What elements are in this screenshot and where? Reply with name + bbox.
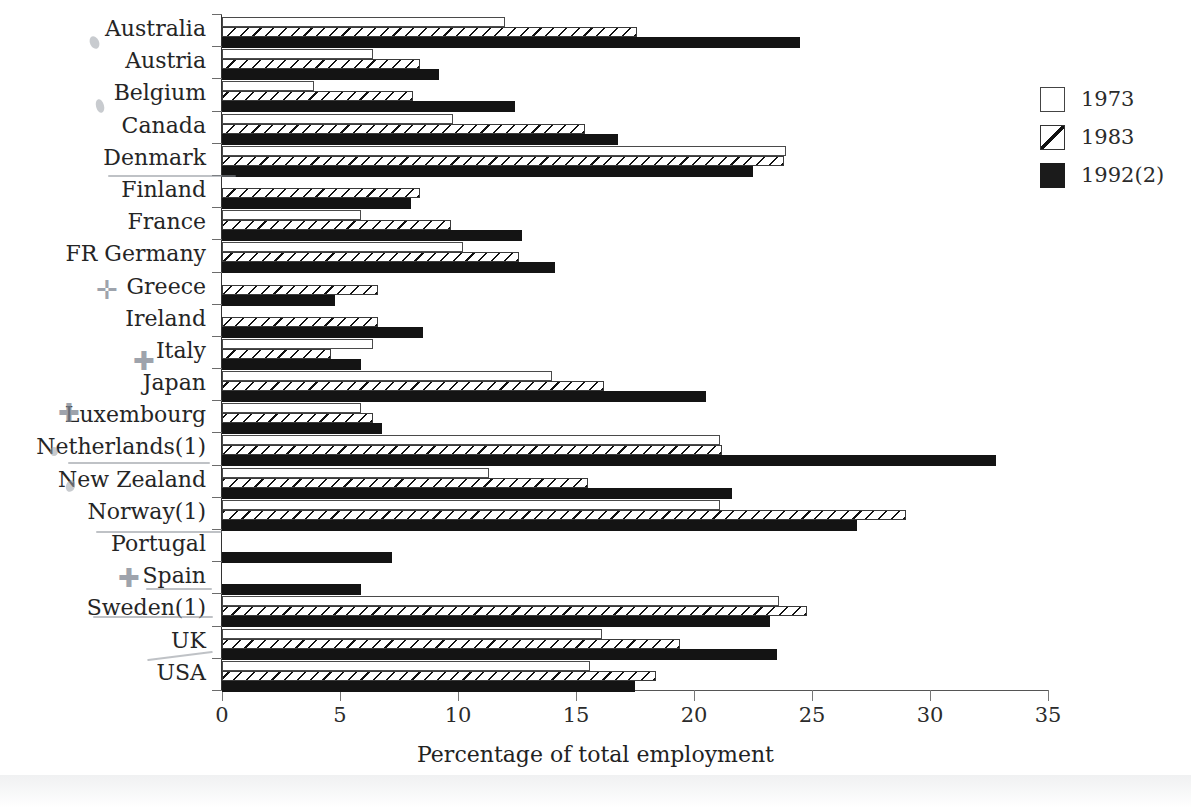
category-tick: [212, 465, 222, 466]
bar: [222, 59, 420, 69]
bar: [222, 606, 807, 616]
bar: [222, 17, 505, 27]
category-label-japan: Japan: [143, 371, 206, 395]
bar: [222, 500, 720, 510]
bar: [222, 391, 706, 402]
bar: [222, 629, 602, 639]
category-label-canada: Canada: [122, 114, 206, 138]
category-tick: [212, 561, 222, 562]
bar: [222, 339, 373, 349]
category-tick: [212, 239, 222, 240]
bar: [222, 455, 996, 466]
category-label-belgium: Belgium: [114, 81, 206, 105]
category-tick: [212, 207, 222, 208]
category-label-sweden-1: Sweden(1): [87, 596, 206, 620]
category-tick: [212, 400, 222, 401]
bar: [222, 134, 618, 145]
bar: [222, 349, 331, 359]
bar: [222, 37, 800, 48]
legend-label-1992: 1992(2): [1081, 163, 1164, 187]
x-axis-title-text: Percentage of total employment: [417, 742, 774, 767]
bar: [222, 242, 463, 252]
bar: [222, 423, 382, 434]
category-label-norway-1: Norway(1): [87, 500, 206, 524]
bar: [222, 220, 451, 230]
axis-tick-label: 10: [445, 703, 472, 727]
bar: [222, 252, 519, 262]
category-label-fr-germany: FR Germany: [65, 242, 206, 266]
bar: [222, 478, 588, 488]
category-label-uk: UK: [171, 629, 206, 653]
axis-tick: [812, 690, 813, 701]
bar: [222, 371, 552, 381]
bar: [222, 468, 489, 478]
category-tick: [212, 111, 222, 112]
pen-cross-greece-icon: ✛: [96, 277, 118, 303]
category-label-luxembourg: Luxembourg: [65, 403, 206, 427]
legend-swatch-open-square: [1040, 87, 1065, 112]
bar: [222, 188, 420, 198]
category-tick: [212, 658, 222, 659]
category-tick: [212, 690, 222, 691]
category-tick: [212, 304, 222, 305]
category-label-finland: Finland: [121, 178, 206, 202]
category-tick: [212, 529, 222, 530]
legend-swatch-hatched-square: [1040, 125, 1065, 150]
category-tick: [212, 78, 222, 79]
bar: [222, 445, 722, 455]
axis-tick: [1048, 690, 1049, 701]
bar: [222, 230, 522, 241]
bar: [222, 101, 515, 112]
category-label-new-zealand: New Zealand: [58, 468, 206, 492]
legend: 1973 1983 1992(2): [1040, 80, 1190, 194]
category-tick: [212, 626, 222, 627]
bar: [222, 295, 335, 306]
bar: [222, 616, 770, 627]
scan-smudge-icon: [94, 98, 105, 114]
bar: [222, 435, 720, 445]
bar: [222, 681, 635, 692]
category-label-france: France: [128, 210, 206, 234]
category-label-italy: Italy: [156, 339, 206, 363]
bar: [222, 146, 786, 156]
axis-tick-label: 15: [563, 703, 590, 727]
bar: [222, 81, 314, 91]
bar: [222, 262, 555, 273]
legend-item-1992: 1992(2): [1040, 156, 1190, 194]
bar: [222, 596, 779, 606]
category-label-australia: Australia: [105, 17, 206, 41]
legend-label-1983: 1983: [1081, 125, 1134, 149]
bar: [222, 27, 637, 37]
axis-tick-label: 20: [681, 703, 708, 727]
legend-item-1973: 1973: [1040, 80, 1190, 118]
bar: [222, 359, 361, 370]
pen-underline-netherlands: [68, 462, 210, 464]
category-label-ireland: Ireland: [125, 307, 206, 331]
axis-tick-label: 0: [215, 703, 228, 727]
bar: [222, 649, 777, 660]
bar: [222, 91, 413, 101]
bar: [222, 124, 585, 134]
axis-tick-label: 25: [799, 703, 826, 727]
bar: [222, 488, 732, 499]
category-tick: [212, 272, 222, 273]
axis-tick-label: 35: [1035, 703, 1062, 727]
bar: [222, 584, 361, 595]
bar: [222, 166, 753, 177]
bar: [222, 210, 361, 220]
category-label-netherlands-1: Netherlands(1): [36, 435, 206, 459]
bar: [222, 671, 656, 681]
axis-tick: [694, 690, 695, 701]
bar-chart: 05101520253035 AustraliaAustriaBelgiumCa…: [0, 0, 1191, 808]
bar: [222, 114, 453, 124]
legend-item-1983: 1983: [1040, 118, 1190, 156]
bar: [222, 510, 906, 520]
category-label-spain: Spain: [143, 564, 206, 588]
category-tick: [212, 368, 222, 369]
axis-tick-label: 5: [333, 703, 346, 727]
category-tick: [212, 336, 222, 337]
category-label-austria: Austria: [125, 49, 206, 73]
category-tick: [212, 593, 222, 594]
category-tick: [212, 432, 222, 433]
bar: [222, 403, 361, 413]
